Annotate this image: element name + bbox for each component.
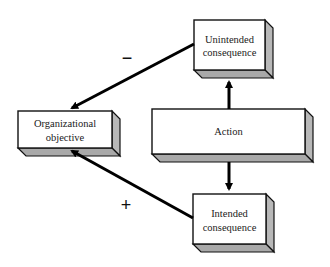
node-label-line1: Organizational	[34, 118, 96, 129]
node-label: Action	[214, 126, 243, 137]
node-label-line2: consequence	[203, 222, 257, 233]
positive-sign: +	[121, 195, 132, 215]
node-label-line2: consequence	[203, 47, 257, 58]
edge-unintended-to-objective: −	[72, 44, 194, 108]
causal-diagram: Organizational objective Unintended cons…	[0, 0, 330, 267]
node-action: Action	[152, 109, 313, 162]
node-intended-consequence: Intended consequence	[193, 194, 274, 252]
node-unintended-consequence: Unintended consequence	[194, 20, 273, 78]
node-label-line1: Unintended	[205, 34, 255, 45]
negative-sign: −	[122, 48, 133, 68]
node-label-line2: objective	[46, 132, 85, 143]
node-label-line1: Intended	[211, 208, 248, 219]
node-organizational-objective: Organizational objective	[18, 111, 120, 156]
